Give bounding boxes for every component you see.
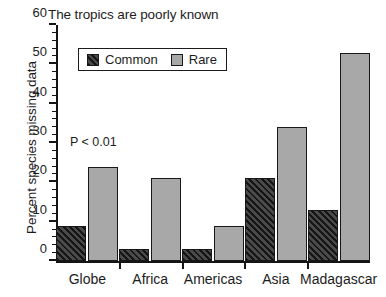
y-tick-minor (52, 189, 56, 190)
y-tick-label: 20 (33, 163, 47, 176)
x-tick-label-americas: Americas (184, 272, 242, 286)
y-tick-minor (52, 126, 56, 127)
legend-entry-rare: Rare (171, 53, 217, 66)
y-tick-minor (52, 173, 56, 174)
bar-americas-common (182, 249, 212, 261)
y-tick-major (49, 259, 56, 261)
y-tick-minor (52, 40, 56, 41)
legend-entry-common: Common (87, 53, 158, 66)
bar-americas-rare (214, 226, 244, 261)
x-group-separator-tick (307, 263, 309, 269)
legend-swatch-common-icon (87, 54, 99, 66)
y-tick-minor (52, 79, 56, 80)
y-tick-minor (52, 150, 56, 151)
y-axis-label: Percent species missing data (24, 33, 39, 263)
legend-swatch-rare-icon (171, 54, 183, 66)
y-tick-label: 60 (33, 6, 47, 19)
y-tick-major (49, 220, 56, 222)
chart-legend: Common Rare (78, 48, 227, 71)
p-value-annotation: P < 0.01 (70, 135, 117, 149)
y-tick-minor (52, 118, 56, 119)
bar-madagascar-rare (340, 53, 370, 261)
y-tick-minor (52, 95, 56, 96)
chart-title: The tropics are poorly known (48, 7, 219, 22)
x-tick-label-madagascar: Madagascar (300, 272, 377, 286)
x-group-separator-tick (182, 263, 184, 269)
y-tick-minor (52, 252, 56, 253)
x-axis-line (56, 261, 370, 263)
x-group-separator-tick (119, 263, 121, 269)
y-tick-minor (52, 48, 56, 49)
y-tick-major (49, 23, 56, 25)
x-tick-label-globe: Globe (69, 272, 106, 286)
y-tick-label: 50 (33, 45, 47, 58)
y-tick-major (49, 102, 56, 104)
y-tick-minor (52, 158, 56, 159)
y-tick-minor (52, 244, 56, 245)
bar-asia-rare (277, 127, 307, 261)
y-tick-minor (52, 71, 56, 72)
y-tick-label: 10 (33, 202, 47, 215)
x-tick-label-asia: Asia (262, 272, 289, 286)
y-tick-minor (52, 229, 56, 230)
y-tick-minor (52, 205, 56, 206)
bar-africa-common (119, 249, 149, 261)
plot-area: 0102030405060 GlobeAfricaAmericasAsiaMad… (56, 25, 370, 263)
y-tick-major (49, 62, 56, 64)
bar-madagascar-common (308, 210, 338, 261)
y-tick-minor (52, 111, 56, 112)
y-tick-minor (52, 166, 56, 167)
x-group-separator-tick (244, 263, 246, 269)
y-tick-minor (52, 134, 56, 135)
bar-globe-rare (88, 167, 118, 261)
bar-africa-rare (151, 178, 181, 261)
legend-label-rare: Rare (189, 53, 217, 66)
bar-globe-common (56, 226, 86, 261)
y-tick-major (49, 180, 56, 182)
x-tick-label-africa: Africa (132, 272, 168, 286)
y-tick-minor (52, 236, 56, 237)
y-tick-minor (52, 55, 56, 56)
bar-asia-common (245, 178, 275, 261)
y-tick-label: 0 (40, 242, 47, 255)
y-tick-minor (52, 213, 56, 214)
chart-figure: The tropics are poorly known Percent spe… (0, 0, 386, 297)
y-tick-label: 30 (33, 124, 47, 137)
y-tick-minor (52, 87, 56, 88)
y-tick-label: 40 (33, 84, 47, 97)
legend-label-common: Common (105, 53, 158, 66)
y-tick-major (49, 141, 56, 143)
y-tick-minor (52, 197, 56, 198)
y-tick-minor (52, 32, 56, 33)
